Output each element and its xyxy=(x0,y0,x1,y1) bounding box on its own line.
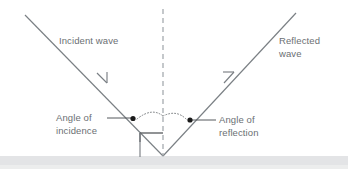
label-incident-wave: Incident wave xyxy=(59,35,118,46)
label-reflected-wave-line1: Reflected xyxy=(279,35,320,46)
label-angle-of-reflection-line1: Angle of xyxy=(219,114,255,125)
ground-surface-icon xyxy=(0,156,348,169)
reflection-diagram: Incident wave Reflected wave Angle of in… xyxy=(0,0,348,173)
label-angle-of-incidence-line2: incidence xyxy=(56,125,97,136)
label-angle-of-incidence-line1: Angle of xyxy=(56,112,92,123)
angle-dot-icon-reflection xyxy=(187,117,192,122)
right-angle-marker-icon xyxy=(140,133,163,142)
diagram-canvas: Incident wave Reflected wave Angle of in… xyxy=(0,0,348,173)
label-angle-of-reflection-line2: reflection xyxy=(219,127,259,138)
arrow-down-right-icon xyxy=(97,72,107,83)
angle-dot-icon-incidence xyxy=(130,116,135,121)
dotted-arc-icon-incidence xyxy=(137,112,163,119)
dotted-arc-icon-reflection xyxy=(163,113,187,120)
label-reflected-wave-line2: wave xyxy=(278,48,302,59)
